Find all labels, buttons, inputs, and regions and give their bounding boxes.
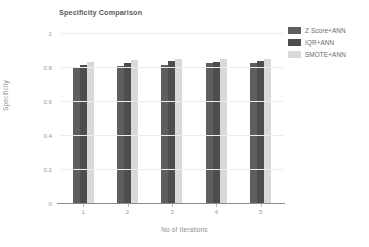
bar — [124, 63, 131, 203]
legend-label: IQR+ANN — [305, 39, 334, 46]
chart-legend: Z Score+ANNIQR+ANNSMOTE+ANN — [288, 27, 346, 58]
y-axis-ticks: 00.20.40.60.81 — [38, 33, 56, 203]
x-tick: 2 — [107, 204, 149, 218]
x-tick: 3 — [151, 204, 193, 218]
bar-group — [161, 33, 182, 203]
x-tick-mark — [172, 204, 173, 207]
bar — [131, 60, 138, 203]
x-tick-label: 5 — [240, 208, 282, 215]
x-tick-mark — [261, 204, 262, 207]
y-tick-label: 0.8 — [43, 64, 52, 71]
y-axis-title: Specificity — [2, 80, 9, 111]
bar — [213, 62, 220, 203]
legend-swatch-icon — [288, 39, 301, 46]
bar — [264, 59, 271, 203]
bar — [161, 65, 168, 203]
legend-item[interactable]: IQR+ANN — [288, 39, 346, 46]
bar — [175, 59, 182, 203]
chart-title: Specificity Comparison — [59, 8, 142, 17]
legend-swatch-icon — [288, 27, 301, 34]
x-tick-label: 2 — [107, 208, 149, 215]
x-axis-ticks: 12345 — [61, 204, 283, 218]
legend-item[interactable]: Z Score+ANN — [288, 27, 346, 34]
legend-label: Z Score+ANN — [305, 27, 346, 34]
bar — [87, 62, 94, 203]
gridline — [61, 135, 283, 136]
y-tick-label: 0.2 — [43, 166, 52, 173]
bar-group — [73, 33, 94, 203]
legend-label: SMOTE+ANN — [305, 51, 346, 58]
bar-group — [117, 33, 138, 203]
x-tick-mark — [216, 204, 217, 207]
gridline — [61, 101, 283, 102]
bar — [250, 63, 257, 203]
bar-group — [206, 33, 227, 203]
chart-container: Specificity Comparison Specificity 00.20… — [0, 0, 369, 247]
bar — [257, 61, 264, 203]
x-tick-mark — [128, 204, 129, 207]
x-tick-label: 1 — [62, 208, 104, 215]
legend-item[interactable]: SMOTE+ANN — [288, 51, 346, 58]
plot-area — [61, 33, 283, 203]
y-tick-label: 0.4 — [43, 132, 52, 139]
bar — [80, 65, 87, 203]
x-axis-title: No of Iterations — [0, 226, 369, 233]
x-tick: 1 — [62, 204, 104, 218]
x-tick: 5 — [240, 204, 282, 218]
x-tick: 4 — [195, 204, 237, 218]
bar — [220, 59, 227, 203]
y-tick-label: 0.6 — [43, 98, 52, 105]
x-tick-label: 4 — [195, 208, 237, 215]
gridline — [61, 169, 283, 170]
legend-swatch-icon — [288, 51, 301, 58]
y-tick-label: 1 — [49, 30, 52, 37]
bar-group — [250, 33, 271, 203]
x-tick-label: 3 — [151, 208, 193, 215]
gridline — [61, 67, 283, 68]
gridline — [61, 33, 283, 34]
bar — [206, 63, 213, 203]
bar-groups — [61, 33, 283, 203]
y-tick-label: 0 — [49, 200, 52, 207]
bar — [168, 61, 175, 203]
x-tick-mark — [83, 204, 84, 207]
